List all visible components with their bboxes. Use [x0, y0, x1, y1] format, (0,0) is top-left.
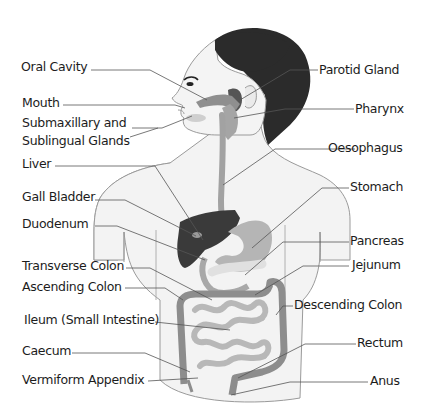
label-stomach: Stomach [350, 180, 403, 194]
label-oesophagus: Oesophagus [328, 141, 403, 155]
label-gall-bladder: Gall Bladder [22, 190, 95, 204]
head [172, 28, 310, 145]
label-liver: Liver [22, 157, 51, 171]
label-ileum: Ileum (Small Intestine) [24, 313, 159, 327]
label-jejunum: Jejunum [352, 258, 401, 272]
label-duodenum: Duodenum [22, 217, 88, 231]
label-oral-cavity: Oral Cavity [21, 60, 87, 74]
label-descending-colon: Descending Colon [294, 298, 402, 312]
label-pharynx: Pharynx [355, 102, 404, 116]
label-parotid-gland: Parotid Gland [319, 63, 399, 77]
label-ascending-colon: Ascending Colon [22, 280, 122, 294]
label-mouth: Mouth [22, 96, 60, 110]
label-caecum: Caecum [22, 344, 71, 358]
label-anus: Anus [370, 374, 400, 388]
label-submaxillary-line1: Submaxillary and [22, 116, 126, 130]
label-vermiform-appendix: Vermiform Appendix [22, 373, 144, 387]
label-transverse-colon: Transverse Colon [22, 259, 124, 273]
label-submaxillary-line2: Sublingual Glands [22, 134, 130, 148]
label-rectum: Rectum [357, 336, 403, 350]
label-pancreas: Pancreas [350, 234, 404, 248]
